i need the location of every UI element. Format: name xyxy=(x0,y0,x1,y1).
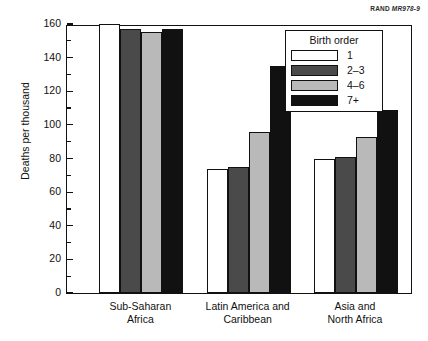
bar xyxy=(207,169,228,293)
publisher-label: RAND xyxy=(370,5,390,12)
bar xyxy=(249,132,270,293)
report-id-label: MR978-9 xyxy=(392,5,420,12)
legend-entry: 4–6 xyxy=(291,79,377,91)
legend-label: 1 xyxy=(347,49,353,61)
legend-swatch xyxy=(291,50,338,61)
y-tick-label: 0 xyxy=(55,286,61,298)
bar-group xyxy=(207,26,291,293)
legend-swatch xyxy=(291,65,338,76)
x-axis-category-label: Asia andNorth Africa xyxy=(285,300,425,325)
legend-label: 4–6 xyxy=(347,79,365,91)
y-tick-label: 120 xyxy=(43,84,61,96)
legend-entry: 1 xyxy=(291,49,377,61)
y-tick-label: 20 xyxy=(49,252,61,264)
legend-swatch xyxy=(291,95,338,106)
y-tick-mark xyxy=(67,23,73,24)
y-tick-label: 60 xyxy=(49,185,61,197)
y-tick-label: 160 xyxy=(43,17,61,29)
legend-swatch xyxy=(291,80,338,91)
bar xyxy=(141,32,162,293)
bar xyxy=(356,137,377,293)
bar xyxy=(99,24,120,293)
y-axis-title: Deaths per thousand xyxy=(19,21,31,241)
legend-entry: 7+ xyxy=(291,94,377,106)
legend-title: Birth order xyxy=(291,34,377,46)
x-axis-label-line: North Africa xyxy=(285,313,425,326)
x-axis-label-line: Asia and xyxy=(285,300,425,313)
bar xyxy=(335,157,356,293)
legend-label: 2–3 xyxy=(347,64,365,76)
bar xyxy=(120,29,141,293)
legend-entry: 2–3 xyxy=(291,64,377,76)
bar xyxy=(377,110,398,293)
y-tick-label: 100 xyxy=(43,118,61,130)
y-tick-label: 140 xyxy=(43,51,61,63)
bar xyxy=(228,167,249,293)
bar xyxy=(314,159,335,294)
legend-entries: 12–34–67+ xyxy=(291,49,377,106)
y-tick-label: 40 xyxy=(49,219,61,231)
legend: Birth order 12–34–67+ xyxy=(285,30,383,112)
legend-label: 7+ xyxy=(347,94,359,106)
bar-group xyxy=(99,26,183,293)
y-tick-label: 80 xyxy=(49,152,61,164)
source-credit: RANDMR978-9 xyxy=(370,5,420,12)
bar xyxy=(162,29,183,293)
